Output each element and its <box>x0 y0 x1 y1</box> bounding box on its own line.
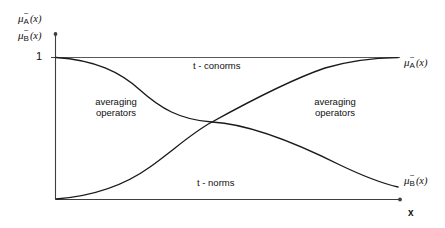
tilde-accent-icon: ~ <box>410 173 415 179</box>
y-tick-label-one: 1 <box>36 51 42 62</box>
curve-label-mu-a-argument: (x) <box>416 57 428 68</box>
region-label-t-norms: t - norms <box>197 177 234 188</box>
curve-label-mu-b-argument: (x) <box>416 175 428 186</box>
tilde-accent-icon: ~ <box>410 55 415 61</box>
subscript-letter: A <box>410 61 415 70</box>
tilde-accent-icon: ~ <box>24 28 29 34</box>
region-label-averaging-operators-right: averaging operators <box>297 96 373 118</box>
x-axis-label: x <box>408 207 414 218</box>
subscript-letter: B <box>24 34 29 43</box>
y-axis-label-mu-b: μ~B(x) <box>18 30 42 42</box>
curve-label-mu-b-subscript: ~B <box>410 178 415 189</box>
tilde-accent-icon: ~ <box>24 11 29 17</box>
region-label-t-conorms: t - conorms <box>193 60 241 71</box>
region-label-right-line-1: averaging <box>297 96 373 107</box>
plot-canvas <box>0 0 445 228</box>
region-label-averaging-operators-left: averaging operators <box>78 96 154 118</box>
fuzzy-operator-range-figure: μ~A(x) μ~B(x) 1 t - conorms averaging op… <box>0 0 445 228</box>
subscript-letter: B <box>410 179 415 188</box>
region-label-left-line-2: operators <box>78 107 154 118</box>
y-axis-label-mu-a: μ~A(x) <box>18 13 42 25</box>
y-axis-label-mu-b-subscript: ~B <box>24 33 29 44</box>
y-axis-top-marker <box>54 32 58 36</box>
curve-label-mu-a-subscript: ~A <box>410 60 415 71</box>
curve-mu-a <box>56 58 398 188</box>
curve-label-mu-a: μ~A(x) <box>404 57 428 69</box>
y-axis-label-mu-a-argument: (x) <box>30 13 42 24</box>
curve-label-mu-b: μ~B(x) <box>404 175 428 187</box>
region-label-right-line-2: operators <box>297 107 373 118</box>
region-label-left-line-1: averaging <box>78 96 154 107</box>
y-axis-label-mu-b-argument: (x) <box>30 30 42 41</box>
x-axis-right-marker <box>398 198 402 202</box>
